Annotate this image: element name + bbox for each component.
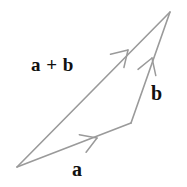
vector-addition-figure: a + b b a <box>0 0 187 187</box>
vector-b-arrowhead <box>138 58 156 76</box>
vector-b-line <box>131 12 170 123</box>
vector-b-label: b <box>151 83 162 103</box>
vector-a-arrowhead <box>79 135 97 153</box>
vector-sum-label: a + b <box>31 55 74 74</box>
vector-b-group <box>131 12 170 123</box>
vector-a-label: a <box>72 159 82 179</box>
vector-sum-arrowhead <box>111 50 129 68</box>
